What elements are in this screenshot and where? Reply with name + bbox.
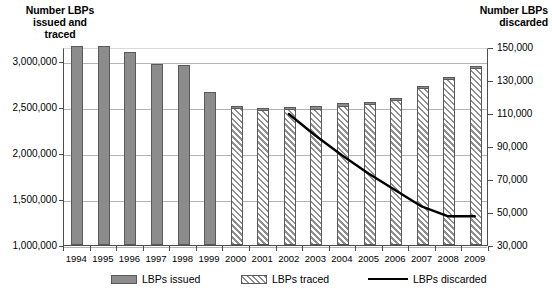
lbps-discarded-line — [289, 114, 475, 216]
legend-item: LBPs issued — [111, 272, 200, 286]
x-tick-mark — [461, 246, 462, 251]
x-tick-mark — [222, 246, 223, 251]
x-tick-label: 1996 — [116, 254, 143, 264]
x-tick-mark — [196, 246, 197, 251]
legend-label: LBPs issued — [142, 274, 200, 285]
x-tick-mark — [488, 246, 489, 251]
x-tick-mark — [329, 246, 330, 251]
x-tick-mark — [435, 246, 436, 251]
right-y-tick-label: 50,000 — [497, 208, 551, 218]
left-y-tick-label: 3,000,000 — [0, 57, 57, 67]
discarded-line-layer — [63, 48, 488, 246]
x-tick-label: 1994 — [63, 254, 90, 264]
x-tick-label: 2002 — [276, 254, 303, 264]
x-tick-label: 2001 — [249, 254, 276, 264]
x-tick-mark — [63, 246, 64, 251]
right-y-tick-mark — [488, 114, 493, 115]
x-tick-label: 2009 — [461, 254, 488, 264]
x-tick-label: 1999 — [196, 254, 223, 264]
right-y-tick-mark — [488, 213, 493, 214]
x-tick-label: 1997 — [143, 254, 170, 264]
right-y-tick-label: 110,000 — [497, 109, 551, 119]
x-tick-label: 2000 — [222, 254, 249, 264]
x-tick-label: 2003 — [302, 254, 329, 264]
x-tick-mark — [382, 246, 383, 251]
legend-label: LBPs discarded — [413, 274, 487, 285]
x-tick-label: 2006 — [382, 254, 409, 264]
x-tick-mark — [408, 246, 409, 251]
x-tick-mark — [302, 246, 303, 251]
right-axis-title: Number LBPs discarded — [448, 4, 548, 28]
x-tick-label: 1995 — [90, 254, 117, 264]
right-y-tick-label: 30,000 — [497, 241, 551, 251]
x-tick-label: 1998 — [169, 254, 196, 264]
x-tick-label: 2008 — [435, 254, 462, 264]
left-axis-title: Number LBPs issued and traced — [8, 4, 112, 40]
left-y-tick-label: 1,000,000 — [0, 241, 57, 251]
right-y-tick-mark — [488, 147, 493, 148]
x-tick-mark — [276, 246, 277, 251]
x-tick-mark — [116, 246, 117, 251]
right-y-tick-label: 150,000 — [497, 43, 551, 53]
right-y-tick-label: 70,000 — [497, 175, 551, 185]
x-tick-mark — [90, 246, 91, 251]
right-y-tick-label: 90,000 — [497, 142, 551, 152]
legend-swatch-issued — [111, 275, 137, 284]
x-tick-mark — [249, 246, 250, 251]
x-tick-label: 2004 — [329, 254, 356, 264]
x-tick-label: 2005 — [355, 254, 382, 264]
x-tick-mark — [169, 246, 170, 251]
left-y-tick-label: 2,000,000 — [0, 149, 57, 159]
x-tick-label: 2007 — [408, 254, 435, 264]
left-y-tick-label: 2,500,000 — [0, 103, 57, 113]
right-y-tick-label: 130,000 — [497, 76, 551, 86]
left-y-tick-label: 1,500,000 — [0, 195, 57, 205]
legend-swatch-traced — [241, 275, 267, 284]
right-y-tick-mark — [488, 81, 493, 82]
right-y-tick-mark — [488, 180, 493, 181]
chart-legend: LBPs issuedLBPs tracedLBPs discarded — [63, 272, 488, 288]
x-tick-mark — [143, 246, 144, 251]
legend-item: LBPs traced — [241, 272, 329, 286]
chart-container: Number LBPs issued and traced Number LBP… — [0, 0, 552, 294]
legend-item: LBPs discarded — [368, 272, 487, 286]
x-tick-mark — [355, 246, 356, 251]
right-y-tick-mark — [488, 48, 493, 49]
legend-label: LBPs traced — [272, 274, 329, 285]
legend-swatch-line — [368, 278, 408, 280]
